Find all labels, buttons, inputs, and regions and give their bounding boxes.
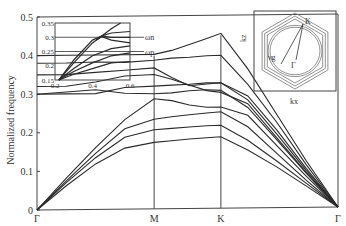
band-structure-chart: 00.10.20.30.40.5 ΓMKΓ Normalized frequen… xyxy=(0,0,346,226)
y-tick-label: 0 xyxy=(28,205,33,216)
y-tick-label: 0.3 xyxy=(21,89,34,100)
inset-y-tick-label: 0.3 xyxy=(45,34,54,42)
inset-x-tick-label: 0.6 xyxy=(126,82,135,90)
inset-y-tick-label: 0.2 xyxy=(45,62,54,70)
y-tick-label: 0.1 xyxy=(21,166,34,177)
band-5 xyxy=(37,90,338,207)
annotation-label: ωn xyxy=(145,33,154,42)
band-3 xyxy=(37,112,338,210)
hexagonal-contour xyxy=(262,13,328,89)
annotation-label: ωp xyxy=(145,48,154,57)
main-plot-frame xyxy=(37,14,338,210)
band-10 xyxy=(37,33,338,207)
hexagonal-contour xyxy=(265,16,326,86)
y-axis-label: Normalized frequency xyxy=(5,75,16,165)
y-tick-label: 0.4 xyxy=(21,50,34,61)
hexagonal-contour xyxy=(267,19,322,83)
y-tick-label: 0.2 xyxy=(21,127,34,138)
band-9 xyxy=(37,55,338,207)
x-symmetry-label: K xyxy=(217,213,225,224)
kz-label: kz xyxy=(239,34,248,42)
y-tick-label: 0.5 xyxy=(21,12,34,23)
group-velocity-arrow xyxy=(281,24,303,64)
x-symmetry-label: Γ xyxy=(335,213,341,224)
isofrequency-contours xyxy=(262,13,328,89)
bands xyxy=(37,33,338,210)
inset-x-tick-label: 0.4 xyxy=(88,82,97,90)
gamma-label: Γ xyxy=(291,61,296,70)
inset-y-tick-label: 0.25 xyxy=(42,48,55,56)
gamma-pointer-line xyxy=(296,24,303,60)
x-symmetry-label: M xyxy=(150,213,159,224)
inset-y-tick-label: 0.35 xyxy=(42,20,55,28)
isofrequency-frame xyxy=(254,11,336,91)
x-symmetry-label: Γ xyxy=(34,213,40,224)
k-point-label: K xyxy=(305,17,311,26)
band-8 xyxy=(37,68,338,207)
inset-x-tick-label: 0.2 xyxy=(51,82,60,90)
kx-label: kx xyxy=(290,97,298,106)
vg-label: νg xyxy=(268,53,276,62)
x-axis-line xyxy=(37,207,338,210)
